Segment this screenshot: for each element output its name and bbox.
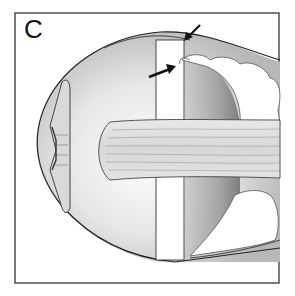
optic-nerve-band xyxy=(99,120,280,181)
panel-label: C xyxy=(24,16,43,42)
illustration-figure: C xyxy=(0,0,295,296)
eye-cross-section-drawing xyxy=(0,0,295,296)
